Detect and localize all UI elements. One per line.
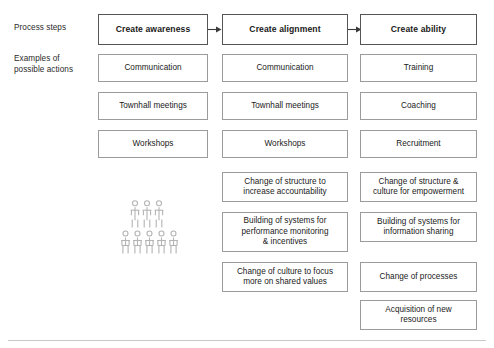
action-box-alignment-workshops[interactable]: Workshops [222, 130, 348, 158]
action-label: Townhall meetings [226, 101, 344, 111]
action-label: Change of structure & culture for empowe… [364, 177, 473, 198]
action-label: Communication [102, 63, 204, 73]
action-label: Workshops [226, 139, 344, 149]
action-label: Change of structure to increase accounta… [226, 177, 344, 198]
action-label: Townhall meetings [102, 101, 204, 111]
action-box-ability-acquisition-of-new-resources[interactable]: Acquisition of new resources [360, 300, 477, 330]
row-label-process-steps: Process steps [14, 23, 66, 34]
action-label: Building of systems for performance moni… [226, 216, 344, 247]
action-label: Recruitment [364, 139, 473, 149]
action-box-alignment-communication[interactable]: Communication [222, 54, 348, 82]
action-label: Change of processes [364, 272, 473, 282]
action-box-ability-change-of-processes[interactable]: Change of processes [360, 262, 477, 292]
action-label: Workshops [102, 139, 204, 149]
row-label-examples-of-possible-actions: Examples of possible actions [14, 54, 73, 75]
action-label: Building of systems for information shar… [364, 217, 473, 238]
action-box-ability-change-of-structure-culture[interactable]: Change of structure & culture for empowe… [360, 172, 477, 202]
header-label-create-alignment: Create alignment [226, 24, 344, 34]
action-label: Communication [226, 63, 344, 73]
people-group-icon [120, 198, 186, 264]
action-box-ability-building-of-systems[interactable]: Building of systems for information shar… [360, 212, 477, 242]
action-label: Coaching [364, 101, 473, 111]
header-box-create-alignment[interactable]: Create alignment [222, 14, 348, 45]
header-box-create-ability[interactable]: Create ability [360, 14, 477, 45]
action-box-alignment-change-of-culture[interactable]: Change of culture to focus more on share… [222, 262, 348, 292]
action-box-ability-recruitment[interactable]: Recruitment [360, 130, 477, 158]
action-box-alignment-townhall-meetings[interactable]: Townhall meetings [222, 92, 348, 120]
action-box-awareness-workshops[interactable]: Workshops [98, 130, 208, 158]
process-diagram: Process steps Examples of possible actio… [0, 0, 494, 348]
header-label-create-ability: Create ability [364, 24, 473, 34]
action-box-awareness-townhall-meetings[interactable]: Townhall meetings [98, 92, 208, 120]
action-box-ability-coaching[interactable]: Coaching [360, 92, 477, 120]
action-label: Change of culture to focus more on share… [226, 267, 344, 288]
action-box-ability-training[interactable]: Training [360, 54, 477, 82]
action-label: Training [364, 63, 473, 73]
arrow-awareness-to-alignment-icon [208, 25, 222, 34]
action-box-alignment-change-of-structure[interactable]: Change of structure to increase accounta… [222, 172, 348, 202]
action-label: Acquisition of new resources [364, 305, 473, 326]
header-box-create-awareness[interactable]: Create awareness [98, 14, 208, 45]
action-box-alignment-building-of-systems[interactable]: Building of systems for performance moni… [222, 212, 348, 252]
action-box-awareness-communication[interactable]: Communication [98, 54, 208, 82]
bottom-divider [8, 340, 486, 341]
header-label-create-awareness: Create awareness [102, 24, 204, 34]
